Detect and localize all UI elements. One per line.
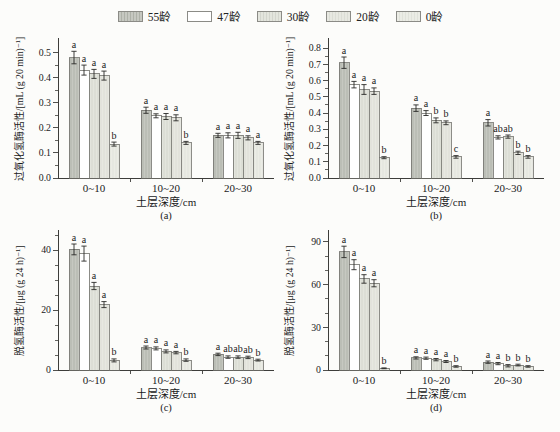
sig-letter: a bbox=[92, 270, 97, 281]
y-tick-label: 0.4 bbox=[39, 72, 51, 83]
sig-letter: a bbox=[342, 45, 347, 56]
legend-swatch bbox=[118, 11, 143, 22]
bar bbox=[359, 90, 369, 179]
sig-letter: a bbox=[174, 339, 179, 350]
y-tick-label: 0.0 bbox=[39, 172, 51, 183]
y-tick-label: 0.5 bbox=[39, 47, 51, 58]
y-tick-label: 0.1 bbox=[309, 156, 321, 167]
x-category-label: 10~20 bbox=[152, 374, 180, 386]
x-category-label: 0~10 bbox=[83, 182, 106, 194]
sig-letter: ab bbox=[243, 344, 252, 355]
sig-letter: b bbox=[112, 130, 117, 141]
legend-item-label: 47龄 bbox=[217, 8, 240, 24]
bar bbox=[141, 348, 151, 371]
sig-letter: a bbox=[216, 341, 221, 352]
y-tick-label: 0.2 bbox=[309, 140, 321, 151]
sig-letter: b bbox=[526, 353, 531, 364]
y-tick-label: 0.2 bbox=[39, 122, 51, 133]
y-tick-label: 0.1 bbox=[39, 147, 51, 158]
sig-letter: a bbox=[102, 59, 107, 70]
bar bbox=[161, 117, 171, 179]
x-category-label: 20~30 bbox=[224, 374, 252, 386]
legend-item-label: 55龄 bbox=[148, 8, 171, 24]
x-category-label: 20~30 bbox=[494, 182, 522, 194]
legend-item: 55龄 bbox=[118, 8, 171, 24]
bar bbox=[523, 157, 533, 178]
bar bbox=[243, 138, 253, 178]
legend: 55龄47龄30龄20龄0龄 bbox=[0, 8, 560, 24]
sig-letter: b bbox=[112, 346, 117, 357]
bar bbox=[223, 135, 233, 178]
sig-letter: a bbox=[82, 53, 87, 64]
sig-letter: a bbox=[352, 247, 357, 258]
sig-letter: a bbox=[424, 345, 429, 356]
bar bbox=[431, 120, 441, 178]
chart-a: 0.00.10.20.30.40.5aaaab0~10aaaab10~20aaa… bbox=[10, 30, 280, 222]
bar bbox=[233, 135, 243, 178]
bar bbox=[233, 357, 243, 370]
sig-letter: b bbox=[256, 347, 261, 358]
sig-letter: a bbox=[434, 346, 439, 357]
bar bbox=[79, 70, 89, 178]
sig-letter: a bbox=[424, 98, 429, 109]
x-category-label: 0~10 bbox=[83, 374, 106, 386]
subplot-caption: (a) bbox=[160, 210, 172, 222]
bar bbox=[349, 85, 359, 178]
y-axis-label: 过氧化氢酶活性/[mL (g 20 min)⁻¹] bbox=[13, 37, 26, 181]
y-tick-label: 0.0 bbox=[309, 172, 321, 183]
bar bbox=[243, 357, 253, 370]
bar bbox=[503, 137, 513, 178]
y-tick-label: 0.8 bbox=[309, 42, 321, 53]
chart-svg: 0306090aaaab0~10aaaab10~20aabbb20~30土层深度… bbox=[280, 222, 550, 414]
bar bbox=[451, 157, 461, 178]
bar bbox=[213, 354, 223, 370]
sig-letter: c bbox=[454, 143, 459, 154]
sig-letter: b bbox=[506, 352, 511, 363]
y-axis-label: 脱氢酶活性/[μg (g 24 h)⁻¹] bbox=[13, 246, 26, 357]
sig-letter: a bbox=[72, 39, 77, 50]
x-category-label: 20~30 bbox=[224, 182, 252, 194]
y-tick-label: 0.3 bbox=[309, 123, 321, 134]
sig-letter: ab bbox=[233, 343, 242, 354]
sig-letter: a bbox=[444, 348, 449, 359]
bar bbox=[99, 76, 109, 178]
charts-grid: 0.00.10.20.30.40.5aaaab0~10aaaab10~20aaa… bbox=[10, 30, 550, 414]
sig-letter: a bbox=[144, 334, 149, 345]
bar bbox=[411, 358, 421, 370]
y-tick-label: 40 bbox=[41, 244, 51, 255]
sig-letter: a bbox=[72, 232, 77, 243]
legend-item: 47龄 bbox=[187, 8, 240, 24]
chart-svg: 02040aaaab0~10aaaab10~20aabababb20~30土层深… bbox=[10, 222, 280, 414]
bar bbox=[171, 118, 181, 178]
sig-letter: a bbox=[342, 234, 347, 245]
sig-letter: b bbox=[184, 129, 189, 140]
sig-letter: a bbox=[372, 267, 377, 278]
sig-letter: a bbox=[226, 120, 231, 131]
sig-letter: b bbox=[184, 346, 189, 357]
sig-letter: a bbox=[486, 349, 491, 360]
sig-letter: a bbox=[102, 289, 107, 300]
x-category-label: 10~20 bbox=[152, 182, 180, 194]
y-tick-label: 20 bbox=[41, 304, 51, 315]
sig-letter: ab bbox=[503, 123, 512, 134]
legend-item-label: 0龄 bbox=[426, 8, 443, 24]
sig-letter: a bbox=[164, 101, 169, 112]
sig-letter: a bbox=[164, 337, 169, 348]
sig-letter: a bbox=[174, 102, 179, 113]
sig-letter: a bbox=[362, 262, 367, 273]
y-tick-label: 0.5 bbox=[309, 91, 321, 102]
sig-letter: b bbox=[516, 139, 521, 150]
bar bbox=[379, 158, 389, 178]
bar bbox=[253, 360, 263, 370]
sig-letter: a bbox=[236, 120, 241, 131]
bar bbox=[421, 358, 431, 370]
chart-d: 0306090aaaab0~10aaaab10~20aabbb20~30土层深度… bbox=[280, 222, 550, 414]
x-category-label: 0~10 bbox=[353, 374, 376, 386]
x-axis-label: 土层深度/cm bbox=[406, 387, 467, 400]
bar bbox=[109, 144, 119, 178]
sig-letter: b bbox=[434, 105, 439, 116]
sig-letter: a bbox=[496, 350, 501, 361]
bar bbox=[79, 254, 89, 370]
bar bbox=[513, 153, 523, 178]
sig-letter: ab bbox=[223, 343, 232, 354]
